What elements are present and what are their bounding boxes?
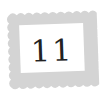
stamp-tile: 11 <box>5 8 100 91</box>
stamp-value: 11 <box>5 8 100 91</box>
